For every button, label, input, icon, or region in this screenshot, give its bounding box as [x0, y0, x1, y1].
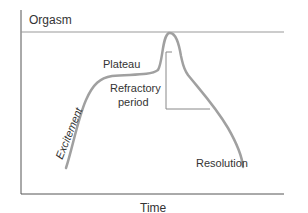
sexual-response-diagram: [0, 0, 308, 213]
response-curve: [66, 33, 243, 168]
orgasm-label: Orgasm: [29, 14, 72, 26]
x-axis-label: Time: [140, 202, 166, 213]
resolution-label: Resolution: [196, 158, 248, 169]
refractory-label-line2: period: [118, 97, 149, 108]
refractory-bracket: [166, 52, 210, 109]
plateau-label: Plateau: [103, 59, 140, 70]
refractory-label-line1: Refractory: [110, 83, 161, 94]
